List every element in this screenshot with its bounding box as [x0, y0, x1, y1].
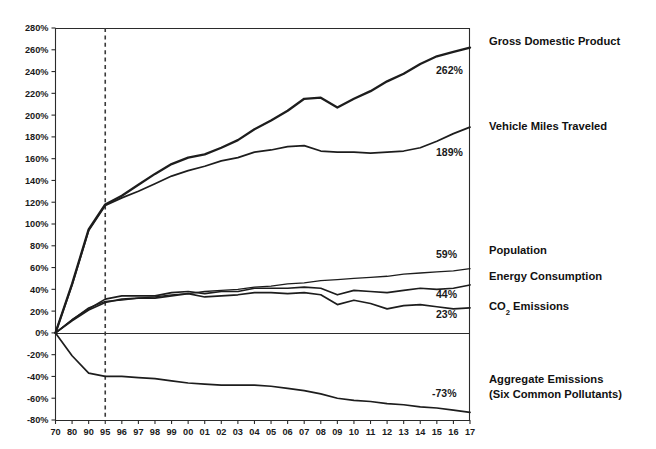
y-tick-label: 60%	[30, 263, 48, 273]
x-axis-group: 7080909596979899000102030405060708091011…	[50, 420, 475, 437]
x-tick-label: 11	[366, 427, 376, 437]
y-tick-label: 180%	[25, 132, 49, 142]
series-label-aggregate-line2: (Six Common Pollutants)	[489, 388, 622, 400]
y-tick-label: 120%	[25, 198, 49, 208]
x-tick-label: 98	[150, 427, 160, 437]
chart-svg: 280%260%240%220%200%180%160%140%120%100%…	[0, 0, 656, 449]
co2-suffix: Emissions	[510, 300, 569, 312]
y-tick-label: 260%	[25, 45, 49, 55]
y-tick-label: 100%	[25, 219, 49, 229]
y-tick-label: -60%	[27, 394, 48, 404]
x-tick-label: 96	[117, 427, 127, 437]
series-path-aggregate-emissions-six-common-pollutants	[56, 333, 471, 412]
x-tick-label: 12	[382, 427, 392, 437]
x-tick-label: 02	[216, 427, 226, 437]
y-tick-label: -40%	[27, 372, 48, 382]
x-tick-label: 99	[166, 427, 176, 437]
x-tick-label: 05	[266, 427, 276, 437]
x-tick-label: 13	[399, 427, 409, 437]
series-label-energy: Energy Consumption	[489, 270, 602, 282]
series-label-vmt: Vehicle Miles Traveled	[489, 120, 607, 132]
series-lines-group	[56, 48, 471, 413]
chart-title	[0, 0, 656, 1]
x-tick-label: 10	[349, 427, 359, 437]
x-tick-label: 06	[283, 427, 293, 437]
x-tick-label: 00	[183, 427, 193, 437]
y-tick-label: 80%	[30, 241, 48, 251]
x-tick-label: 01	[200, 427, 210, 437]
y-tick-label: 200%	[25, 111, 49, 121]
x-tick-label: 17	[465, 427, 475, 437]
y-tick-label: 220%	[25, 89, 49, 99]
x-tick-label: 07	[299, 427, 309, 437]
x-tick-label: 97	[133, 427, 143, 437]
x-tick-label: 16	[448, 427, 458, 437]
series-label-aggregate-line1: Aggregate Emissions	[489, 373, 603, 385]
x-tick-label: 03	[233, 427, 243, 437]
series-label-gdp: Gross Domestic Product	[489, 35, 620, 47]
x-tick-label: 80	[67, 427, 77, 437]
x-tick-label: 90	[84, 427, 94, 437]
series-path-co2-emissions	[56, 293, 471, 333]
y-tick-label: 160%	[25, 154, 49, 164]
y-tick-label: 40%	[30, 285, 48, 295]
x-tick-label: 15	[432, 427, 442, 437]
y-tick-label: 280%	[25, 23, 49, 33]
series-label-population: Population	[489, 244, 547, 256]
y-tick-label: 240%	[25, 67, 49, 77]
co2-prefix: CO	[489, 300, 506, 312]
y-tick-label: 0%	[35, 328, 48, 338]
x-tick-group: 7080909596979899000102030405060708091011…	[50, 420, 475, 437]
x-tick-label: 09	[332, 427, 342, 437]
x-tick-label: 14	[415, 427, 426, 437]
x-tick-label: 70	[50, 427, 60, 437]
value-label-aggregate: -73%	[432, 387, 457, 399]
y-tick-group: 280%260%240%220%200%180%160%140%120%100%…	[25, 23, 56, 425]
value-label-gdp: 262%	[436, 64, 464, 76]
x-tick-label: 04	[249, 427, 260, 437]
chart-container: 280%260%240%220%200%180%160%140%120%100%…	[0, 0, 656, 449]
y-tick-label: -80%	[27, 415, 48, 425]
value-label-co2: 23%	[436, 308, 458, 320]
value-label-energy: 44%	[436, 288, 458, 300]
series-label-co2: CO2 Emissions	[489, 300, 569, 317]
y-tick-label: 20%	[30, 307, 48, 317]
value-label-population: 59%	[436, 248, 458, 260]
y-axis-group: 280%260%240%220%200%180%160%140%120%100%…	[25, 23, 56, 425]
y-tick-label: -20%	[27, 350, 48, 360]
series-path-vehicle-miles-traveled	[56, 127, 471, 333]
value-label-vmt: 189%	[436, 146, 464, 158]
y-tick-label: 140%	[25, 176, 49, 186]
x-tick-label: 95	[100, 427, 110, 437]
x-tick-label: 08	[316, 427, 326, 437]
